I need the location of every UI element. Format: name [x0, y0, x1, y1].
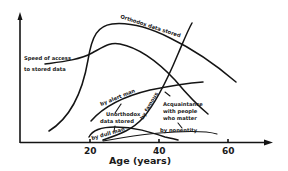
label-unorthodox-line2: data stored — [100, 118, 134, 124]
label-acquaintance-line1: Acquaintance — [163, 101, 203, 108]
x-axis-arrow-icon — [264, 140, 273, 146]
label-orthodox: Orthodox data stored — [120, 13, 182, 38]
curve-labels: Orthodox data stored Speed of access to … — [24, 13, 203, 142]
label-alert-man: by alert man — [99, 87, 136, 108]
label-speed-line2: to stored data — [24, 66, 66, 72]
label-speed-line1: Speed of access — [24, 55, 71, 62]
axes: 20 40 60 Age (years) — [18, 12, 274, 166]
curves — [45, 23, 236, 141]
x-axis-title: Age (years) — [109, 155, 171, 166]
label-unorthodox-line1: Unorthodox — [106, 111, 141, 117]
acquaintance-pointer — [165, 92, 170, 96]
label-acquaintance-line2: with people — [163, 108, 198, 115]
age-curves-chart: 20 40 60 Age (years) Orthodox data store… — [0, 0, 288, 171]
label-famous: by famous — [139, 91, 160, 121]
label-nonentity: by nonentity — [160, 127, 198, 134]
label-acquaintance-line3: who matter — [163, 115, 197, 121]
y-axis-arrow-icon — [18, 12, 23, 20]
x-tick-label-20: 20 — [84, 146, 97, 156]
x-tick-label-60: 60 — [222, 146, 235, 156]
